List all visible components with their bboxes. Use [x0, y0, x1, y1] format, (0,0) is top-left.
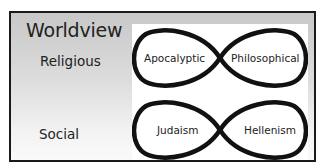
row-label-social: Social	[39, 126, 79, 142]
infinity-loops-icon: Apocalyptic Philosophical Judaism Hellen…	[132, 24, 308, 160]
label-judaism: Judaism	[156, 124, 198, 136]
row-label-religious: Religious	[40, 53, 101, 69]
infinity-social: Judaism Hellenism	[134, 102, 306, 157]
infinity-panel: Apocalyptic Philosophical Judaism Hellen…	[132, 24, 308, 160]
worldview-frame: Worldview Religious Social Apocalyptic P…	[9, 11, 316, 162]
label-hellenism: Hellenism	[244, 124, 296, 136]
infinity-religious: Apocalyptic Philosophical	[134, 30, 306, 85]
worldview-title: Worldview	[26, 19, 122, 41]
label-philosophical: Philosophical	[231, 52, 300, 64]
label-apocalyptic: Apocalyptic	[144, 52, 205, 64]
